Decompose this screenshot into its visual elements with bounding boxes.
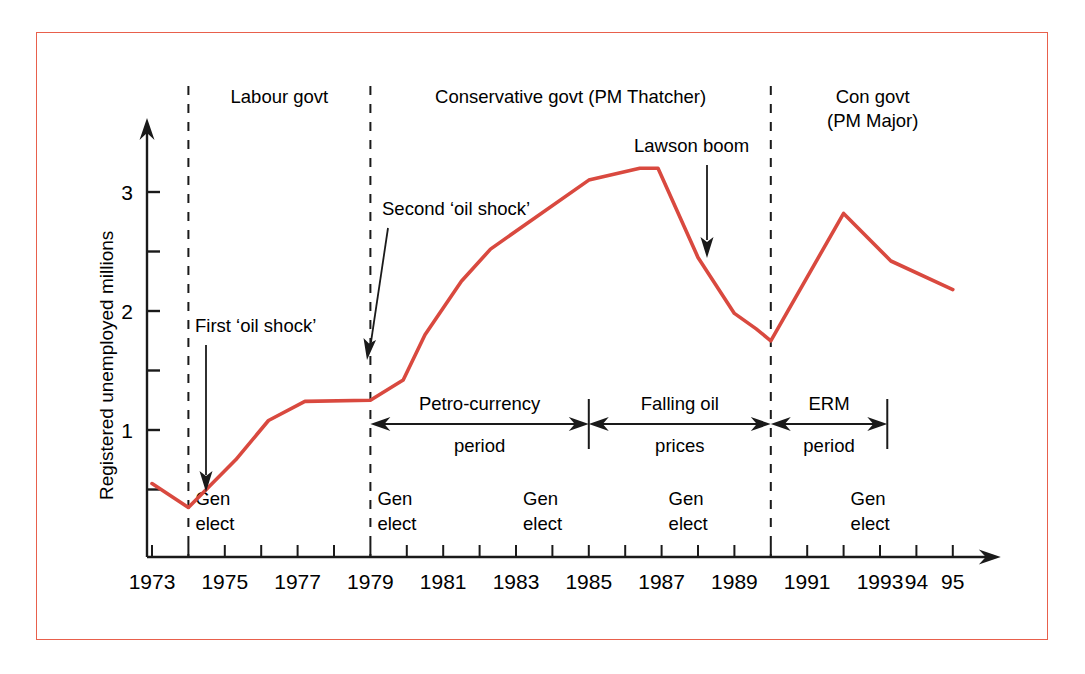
annotation-arrow-line xyxy=(371,228,388,342)
x-tick-label: 1985 xyxy=(565,570,612,593)
x-tick-label: 1987 xyxy=(638,570,685,593)
x-tick-label: 94 xyxy=(905,570,929,593)
x-tick-label: 1977 xyxy=(274,570,321,593)
span-label-erm-period: ERM xyxy=(808,393,849,414)
chart-figure: Registered unemployed millions 123197319… xyxy=(0,0,1085,674)
government-period-label: Labour govt xyxy=(231,86,329,107)
annotation-first-oil-shock: First ‘oil shock’ xyxy=(195,315,316,336)
annotation-second-oil-shock: Second ‘oil shock’ xyxy=(382,198,530,219)
y-tick-label: 1 xyxy=(121,419,133,442)
x-tick-label: 95 xyxy=(941,570,964,593)
annotation-arrowhead xyxy=(701,237,714,258)
span-label-falling-oil-prices: Falling oil xyxy=(641,393,719,414)
gen-elect-label: Genelect xyxy=(851,488,890,534)
government-period-label: Conservative govt (PM Thatcher) xyxy=(435,86,706,107)
y-tick-label: 2 xyxy=(121,300,133,323)
x-tick-label: 1979 xyxy=(347,570,394,593)
x-tick-label: 1981 xyxy=(420,570,467,593)
chart-canvas: 1231973197519771979198119831985198719891… xyxy=(0,0,1085,674)
annotation-lawson-boom: Lawson boom xyxy=(634,135,749,156)
span-label2-erm-period: period xyxy=(803,435,854,456)
government-period-label: Con govt(PM Major) xyxy=(827,86,918,131)
x-tick-label: 1983 xyxy=(493,570,540,593)
x-tick-label: 1991 xyxy=(784,570,831,593)
span-label2-petro-currency: period xyxy=(454,435,505,456)
unemployment-line xyxy=(152,168,953,507)
x-tick-label: 1989 xyxy=(711,570,758,593)
y-tick-label: 3 xyxy=(121,181,133,204)
x-tick-label: 1993 xyxy=(857,570,904,593)
gen-elect-label: Genelect xyxy=(669,488,708,534)
span-label-petro-currency: Petro-currency xyxy=(419,393,541,414)
span-label2-falling-oil-prices: prices xyxy=(655,435,704,456)
x-tick-label: 1973 xyxy=(129,570,176,593)
gen-elect-label: Genelect xyxy=(377,488,416,534)
x-tick-label: 1975 xyxy=(201,570,248,593)
gen-elect-label: Genelect xyxy=(523,488,562,534)
